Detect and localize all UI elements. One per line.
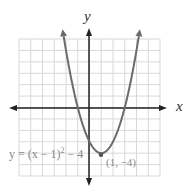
x-axis [9,105,167,111]
equation-prefix: y = (x − 1) [9,147,61,161]
vertex-label: (1, −4) [106,156,136,168]
equation-label: y = (x − 1)2 − 4 [9,146,83,162]
x-axis-label: x [176,98,183,115]
x-axis-arrow-left-icon [9,105,17,111]
y-axis-arrow-down-icon [86,178,92,186]
y-axis-arrow-up-icon [86,28,92,36]
y-axis-label: y [84,8,91,25]
curve-arrow-right-icon [135,29,142,36]
x-axis-arrow-right-icon [159,105,167,111]
curve-arrow-left-icon [60,29,67,36]
vertex-point [99,153,104,158]
equation-suffix: − 4 [65,147,84,161]
